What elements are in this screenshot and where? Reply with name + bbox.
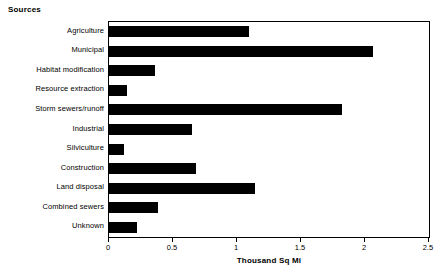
x-tick-mark [172, 238, 173, 242]
bars-layer [109, 22, 429, 237]
bar [109, 202, 158, 213]
bar [109, 124, 192, 135]
category-label: Combined sewers [0, 203, 104, 211]
x-tick-label: 1.5 [295, 243, 305, 252]
x-axis-ticks: 00.511.522.5 [108, 238, 430, 258]
category-label: Agriculture [0, 27, 104, 35]
category-label: Silviculture [0, 144, 104, 152]
chart-title: Sources [8, 5, 41, 14]
bar [109, 46, 373, 57]
bar [109, 104, 342, 115]
bar [109, 26, 249, 37]
category-label: Unknown [0, 222, 104, 230]
bar [109, 65, 155, 76]
x-tick-mark [236, 238, 237, 242]
category-axis-labels: AgricultureMunicipalHabitat modification… [0, 21, 104, 238]
bar-chart: Sources AgricultureMunicipalHabitat modi… [0, 0, 444, 277]
x-tick-mark [300, 238, 301, 242]
category-label: Habitat modification [0, 66, 104, 74]
x-axis-title: Thousand Sq Mi [108, 256, 430, 265]
bar [109, 183, 255, 194]
x-tick-mark [428, 238, 429, 242]
x-tick-label: 2.5 [423, 243, 433, 252]
category-label: Municipal [0, 46, 104, 54]
category-label: Resource extraction [0, 85, 104, 93]
plot-area [108, 21, 430, 238]
x-tick-label: 0.5 [167, 243, 177, 252]
x-tick-label: 0 [106, 243, 110, 252]
bar [109, 144, 124, 155]
category-label: Construction [0, 164, 104, 172]
category-label: Storm sewers/runoff [0, 105, 104, 113]
x-tick-mark [108, 238, 109, 242]
category-label: Industrial [0, 125, 104, 133]
x-tick-label: 2 [362, 243, 366, 252]
x-tick-label: 1 [234, 243, 238, 252]
bar [109, 163, 196, 174]
bar [109, 222, 137, 233]
x-tick-mark [364, 238, 365, 242]
category-label: Land disposal [0, 183, 104, 191]
bar [109, 85, 127, 96]
